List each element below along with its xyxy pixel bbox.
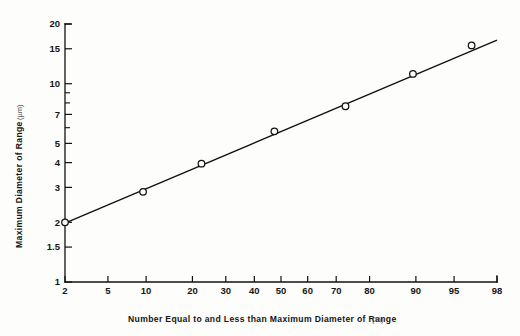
y-tick-label: 1.5 xyxy=(47,241,61,252)
y-axis-ticks xyxy=(65,24,72,282)
x-tick-label: 40 xyxy=(249,285,260,296)
y-tick-label: 7 xyxy=(55,109,60,120)
y-tick-label: 3 xyxy=(55,182,60,193)
x-tick-label: 98 xyxy=(492,285,503,296)
y-tick-label: 20 xyxy=(49,18,60,29)
scatter-plot: 11.523457101520 251020304050607080909598… xyxy=(0,0,520,336)
data-point xyxy=(198,160,205,167)
figure-canvas: 11.523457101520 251020304050607080909598… xyxy=(0,0,520,336)
x-tick-label: 10 xyxy=(141,285,152,296)
data-point xyxy=(410,71,417,78)
x-axis-ticks xyxy=(65,276,497,282)
x-axis-tick-labels: 251020304050607080909598 xyxy=(62,285,502,296)
y-tick-label: 1 xyxy=(55,276,61,287)
x-tick-label: 90 xyxy=(411,285,422,296)
y-axis-tick-labels: 11.523457101520 xyxy=(47,18,61,287)
x-tick-label: 5 xyxy=(105,285,111,296)
x-tick-label: 80 xyxy=(364,285,375,296)
y-tick-label: 15 xyxy=(49,43,60,54)
data-point xyxy=(468,42,475,49)
y-tick-label: 2 xyxy=(55,217,60,228)
x-tick-label: 30 xyxy=(221,285,232,296)
data-point xyxy=(140,189,147,196)
plot-axes xyxy=(65,24,497,282)
data-point xyxy=(271,128,278,135)
svg-text:(%): (%) xyxy=(372,315,384,324)
y-tick-label: 5 xyxy=(55,138,61,149)
best-fit-line xyxy=(65,40,497,223)
svg-text:Number Equal to and Less: Number Equal to and Less than Maximum Di… xyxy=(128,314,397,324)
x-tick-label: 20 xyxy=(187,285,198,296)
x-tick-label: 60 xyxy=(302,285,313,296)
x-axis-title: Number Equal to and Less than Maximum Di… xyxy=(128,314,397,324)
y-axis-title: Maximum Diameter of Range (µm) xyxy=(14,105,24,248)
y-tick-label: 10 xyxy=(49,78,60,89)
y-tick-label: 4 xyxy=(55,157,61,168)
x-tick-label: 50 xyxy=(276,285,287,296)
svg-text:(µm): (µm) xyxy=(15,105,24,120)
x-tick-label: 70 xyxy=(331,285,342,296)
x-tick-label: 2 xyxy=(62,285,67,296)
svg-text:Maximum Diameter of Range: Maximum Diameter of Range xyxy=(14,121,24,248)
x-tick-label: 95 xyxy=(449,285,460,296)
data-point xyxy=(342,103,349,110)
data-point xyxy=(62,219,69,226)
